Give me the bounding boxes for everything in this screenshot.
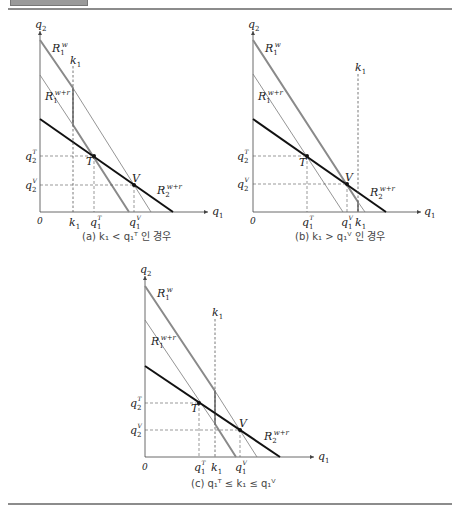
r1wr-label: R1w+r [150, 334, 177, 350]
r2wr-label: R2w+r [369, 185, 396, 201]
q1V-label: q1V [235, 459, 248, 476]
q2V-label: q2V [25, 177, 38, 194]
panel-c: q2 q1 0 R1w R1w+r R2w+r k1 k1 q1T q1V q2… [130, 263, 330, 489]
q2T-label: q2T [237, 148, 250, 165]
r1wr-thin-line [253, 74, 343, 212]
origin-label: 0 [142, 462, 148, 472]
q1-axis-label: q1 [318, 450, 330, 465]
r2wr-label: R2w+r [156, 183, 183, 199]
panel-b: q2 q1 0 R1w R1w+r R2w+r k1 k1 q1T q1V q2… [237, 18, 436, 242]
reaction-function-diagrams: q2 q1 0 R1w R1w+r R2w+r k1 k1 q1T q1V q2… [0, 0, 466, 513]
r1wr-label: R1w+r [257, 89, 284, 105]
r1w-thin-line [215, 391, 257, 457]
k1-axis-label: k1 [355, 216, 366, 231]
q2T-label: q2T [130, 395, 143, 412]
r2wr-line [145, 366, 280, 457]
origin-label: 0 [250, 216, 256, 226]
r1w-thin-line [358, 202, 365, 212]
V-label: V [345, 171, 354, 184]
caption-c: (c) q₁ᵀ ≤ k₁ ≤ q₁ⱽ [191, 478, 276, 489]
k1-axis-label: k1 [69, 216, 80, 231]
q1-axis-label: q1 [424, 205, 436, 220]
r1wr-label: R1w+r [44, 89, 71, 105]
q2T-label: q2T [25, 148, 38, 165]
origin-label: 0 [37, 216, 43, 226]
V-label: V [132, 172, 141, 185]
r1w-label: R1w [264, 41, 281, 57]
r1w-label: R1w [51, 41, 68, 57]
caption-b: (b) k₁ > q₁ⱽ 인 경우 [295, 230, 385, 242]
k1-axis-label: k1 [211, 461, 222, 476]
k1-top-label: k1 [355, 61, 366, 76]
q1V-label: q1V [341, 214, 354, 231]
k1-top-label: k1 [70, 54, 81, 69]
caption-a: (a) k₁ < q₁ᵀ 인 경우 [82, 230, 171, 242]
firm1-reaction-thick [145, 286, 236, 457]
q1V-label: q1V [129, 214, 142, 231]
firm1-reaction-thick [40, 40, 129, 212]
V-label: V [239, 417, 248, 430]
q2-axis-label: q2 [35, 18, 47, 33]
q1-axis-label: q1 [212, 205, 224, 220]
r2wr-line [253, 119, 386, 212]
q2-axis-label: q2 [248, 18, 260, 33]
r2wr-label: R2w+r [263, 429, 290, 445]
q1T-label: q1T [90, 214, 103, 231]
r2wr-line [40, 119, 173, 212]
q1T-label: q1T [194, 459, 207, 476]
r1w-label: R1w [156, 286, 173, 302]
firm1-reaction-thick [253, 40, 358, 212]
q1T-label: q1T [302, 214, 315, 231]
panel-a: q2 q1 0 R1w R1w+r R2w+r k1 k1 q1T q1V q2… [25, 18, 224, 242]
q2-axis-label: q2 [140, 263, 152, 278]
q2V-label: q2V [237, 176, 250, 193]
q2V-label: q2V [130, 422, 143, 439]
k1-top-label: k1 [212, 306, 223, 321]
